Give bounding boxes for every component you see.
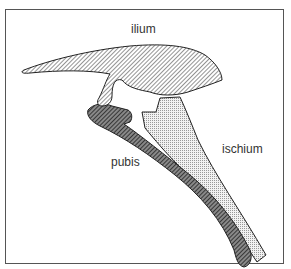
label-pubis: pubis	[111, 155, 140, 169]
pelvis-illustration	[0, 0, 291, 269]
ischium-bone	[142, 97, 266, 262]
label-ilium: ilium	[131, 22, 156, 36]
label-ischium: ischium	[222, 142, 263, 156]
ilium-bone	[22, 45, 222, 106]
